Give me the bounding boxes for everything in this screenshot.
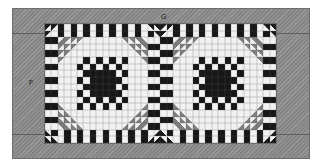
- quilt-patch: [270, 24, 276, 31]
- quilt-patch: [270, 90, 276, 97]
- label-g: G: [161, 13, 167, 20]
- quilt-patch: [270, 123, 276, 130]
- quilt-patch: [270, 50, 276, 57]
- quilt-patch: [270, 77, 276, 84]
- quilt-patch: [270, 31, 276, 38]
- quilt-patchwork-field: [45, 24, 276, 143]
- quilt-patch: [270, 130, 276, 137]
- quilt-patch: [270, 136, 276, 143]
- quilt-patch: [270, 84, 276, 91]
- label-f: F: [29, 79, 33, 86]
- quilt-patch: [270, 44, 276, 51]
- quilt-patch: [270, 97, 276, 104]
- quilt-patch: [270, 117, 276, 124]
- quilt-diagram: F G: [0, 0, 320, 168]
- quilt-patch: [270, 103, 276, 110]
- quilt-patch: [270, 37, 276, 44]
- quilt-patch: [270, 110, 276, 117]
- quilt-patch: [270, 57, 276, 64]
- quilt-patch: [270, 64, 276, 71]
- quilt-patch: [270, 70, 276, 77]
